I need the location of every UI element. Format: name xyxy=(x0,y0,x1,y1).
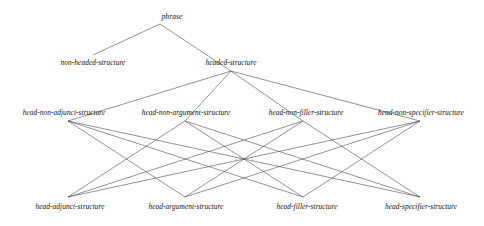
node-head-non-adjunct-structure[interactable]: head-non-adjunct-structure xyxy=(23,108,106,117)
node-head-adjunct-structure[interactable]: head-adjunct-structure xyxy=(36,202,105,211)
node-head-filler-structure[interactable]: head-filler-structure xyxy=(277,202,338,211)
node-head-non-filler-structure[interactable]: head-non-filler-structure xyxy=(269,108,344,117)
node-headed-structure[interactable]: headed-structure xyxy=(205,58,256,67)
node-non-headed-structure[interactable]: non-headed-structure xyxy=(61,58,126,67)
edge-phrase-to-non-headed-structure xyxy=(93,24,160,55)
node-head-non-argument-structure[interactable]: head-non-argument-structure xyxy=(142,108,231,117)
node-phrase[interactable]: phrase xyxy=(162,12,183,21)
node-head-specifier-structure[interactable]: head-specifier-structure xyxy=(385,202,457,211)
node-head-non-specifier-structure[interactable]: head-non-specifier-structure xyxy=(378,108,464,117)
node-head-argument-structure[interactable]: head-argument-structure xyxy=(149,202,224,211)
type-hierarchy-diagram: phrase non-headed-structure headed-struc… xyxy=(0,0,484,226)
